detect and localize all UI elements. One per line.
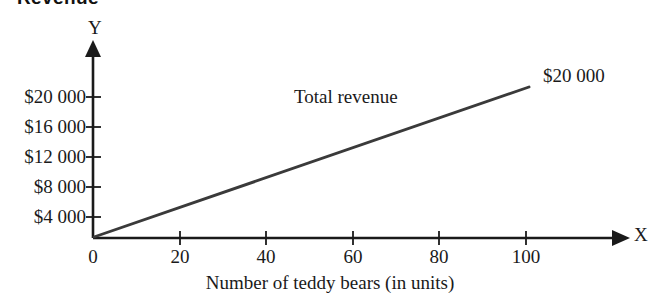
x-tick-label: 80 xyxy=(430,246,449,268)
x-tick-label: 100 xyxy=(512,246,541,268)
y-tick-label: $20 000 xyxy=(0,86,86,108)
y-tick-label: $4 000 xyxy=(0,206,86,228)
x-axis-letter: X xyxy=(634,224,648,246)
y-tick-label: $12 000 xyxy=(0,146,86,168)
total-revenue-series-line xyxy=(94,87,529,237)
x-axis-arrowhead xyxy=(612,230,630,246)
y-axis-arrowhead xyxy=(85,40,101,57)
y-tick-label: $8 000 xyxy=(0,176,86,198)
x-tick-label: 20 xyxy=(171,246,190,268)
x-axis-title: Number of teddy bears (in units) xyxy=(206,272,455,294)
y-tick-label: $16 000 xyxy=(0,116,86,138)
series-label-total-revenue: Total revenue xyxy=(294,86,398,108)
y-axis-letter: Y xyxy=(88,17,102,39)
chart-plot-area xyxy=(0,0,658,303)
x-tick-label: 0 xyxy=(88,246,98,268)
x-tick-label: 40 xyxy=(257,246,276,268)
x-tick-label: 60 xyxy=(344,246,363,268)
endpoint-value-label: $20 000 xyxy=(543,65,605,87)
revenue-chart: Revenue Y X $20 000 $1 xyxy=(0,0,658,303)
